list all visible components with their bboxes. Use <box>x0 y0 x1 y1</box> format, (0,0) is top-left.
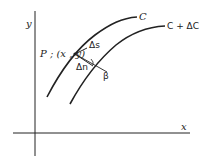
point-p-label: P ; (x , y) <box>39 48 85 59</box>
curve-c-label: C <box>139 11 147 22</box>
beta-label: β <box>103 71 109 81</box>
curve-c-plus-delta-c-label: C + ΔC <box>167 21 199 31</box>
y-axis-label: y <box>25 18 32 29</box>
x-axis-label: x <box>181 121 187 132</box>
diagram-canvas: y x C C + ΔC P ; (x , y) Δs Δn β <box>0 0 205 162</box>
delta-s-label: Δs <box>89 40 100 50</box>
delta-n-label: Δn <box>76 62 88 72</box>
